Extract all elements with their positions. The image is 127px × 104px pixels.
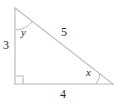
side-label-horizontal-leg: 4 — [60, 88, 66, 100]
geometry-figure: 3 4 5 y x — [0, 0, 127, 104]
triangle-side-hypotenuse — [15, 8, 113, 84]
angle-label-x: x — [86, 67, 91, 78]
angle-arc-x-icon — [96, 73, 100, 84]
angle-label-y: y — [21, 27, 26, 38]
side-label-hypotenuse: 5 — [61, 26, 67, 38]
side-label-vertical-leg: 3 — [3, 39, 9, 51]
right-angle-square-icon — [15, 76, 23, 84]
